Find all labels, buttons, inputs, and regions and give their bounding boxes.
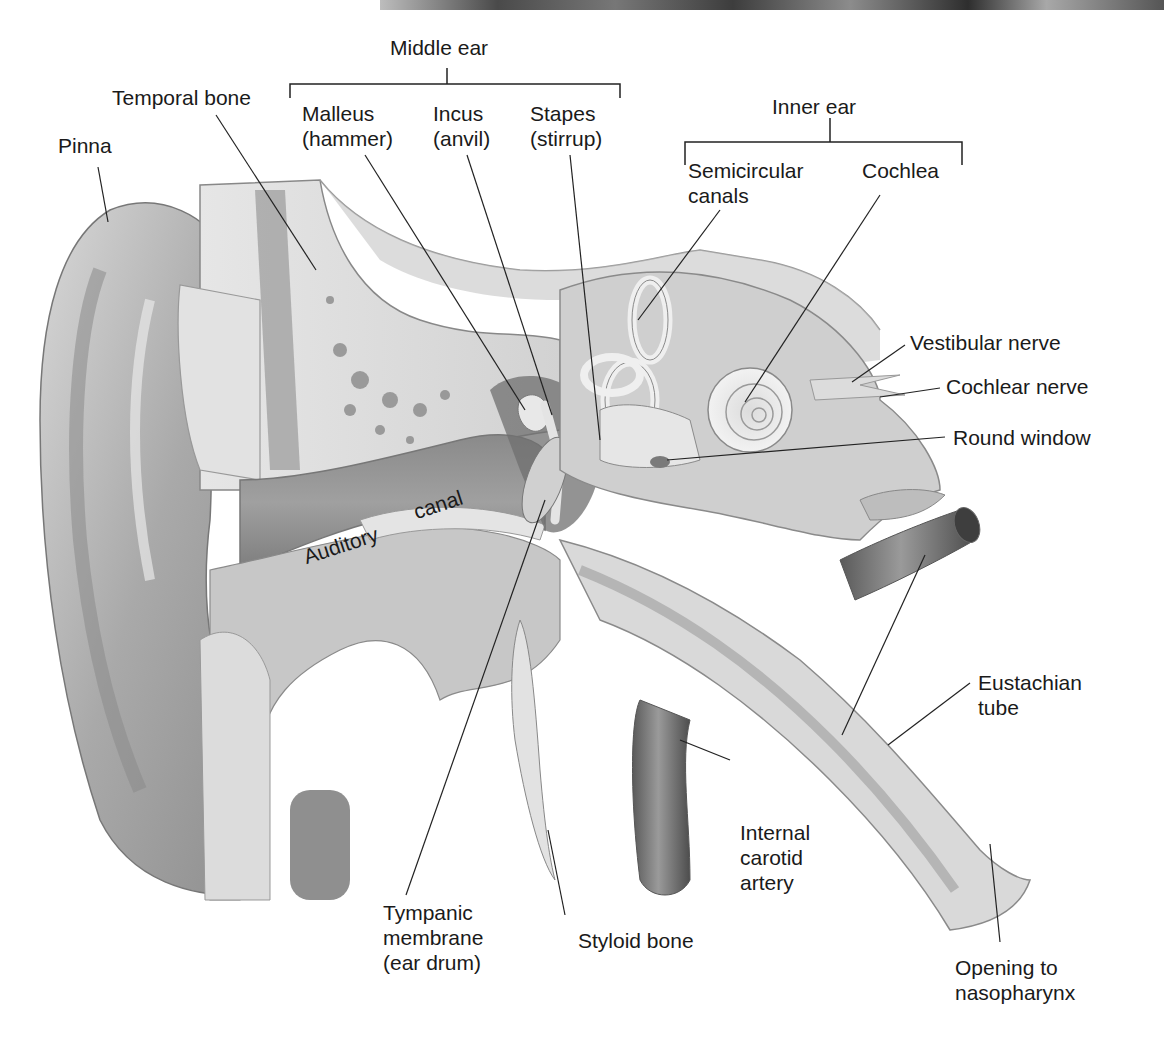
lower-tissue-shape [200,507,560,900]
leader-eustachian-tube [888,683,970,745]
label-internal-carotid-artery: Internal carotid artery [740,820,810,895]
label-pinna: Pinna [58,133,112,158]
label-styloid-bone: Styloid bone [578,928,694,953]
label-round-window: Round window [953,425,1091,450]
label-tympanic-membrane: Tympanic membrane (ear drum) [383,900,483,975]
label-middle-ear: Middle ear [390,35,488,60]
label-eustachian-tube: Eustachian tube [978,670,1082,720]
inner-ear-shape [560,272,945,540]
label-incus: Incus (anvil) [433,101,490,151]
label-semicircular-canals: Semicircular canals [688,158,804,208]
leader-internal-carotid-artery-lower [680,740,730,760]
label-stapes: Stapes (stirrup) [530,101,602,151]
ear-illustration [0,0,1164,1041]
label-vestibular-nerve: Vestibular nerve [910,330,1061,355]
label-opening-to-nasopharynx: Opening to nasopharynx [955,955,1075,1005]
label-inner-ear: Inner ear [772,94,856,119]
label-temporal-bone: Temporal bone [112,85,251,110]
label-cochlea: Cochlea [862,158,939,183]
label-malleus: Malleus (hammer) [302,101,393,151]
label-cochlear-nerve: Cochlear nerve [946,374,1088,399]
